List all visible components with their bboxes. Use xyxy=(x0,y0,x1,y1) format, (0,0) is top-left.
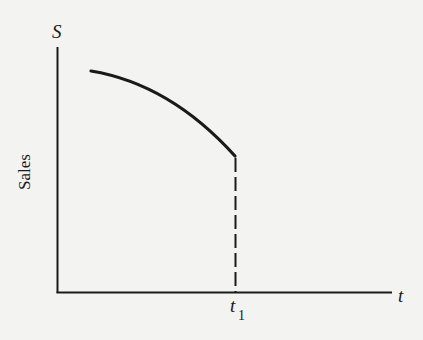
sales-diagram: S t t 1 Sales xyxy=(0,0,423,340)
x-axis-letter: t xyxy=(398,285,404,306)
t1-label-subscript: 1 xyxy=(238,308,245,323)
y-axis-letter: S xyxy=(52,21,62,42)
sales-curve xyxy=(91,71,235,156)
t1-label-main: t xyxy=(230,295,236,316)
y-axis-caption: Sales xyxy=(15,154,34,190)
